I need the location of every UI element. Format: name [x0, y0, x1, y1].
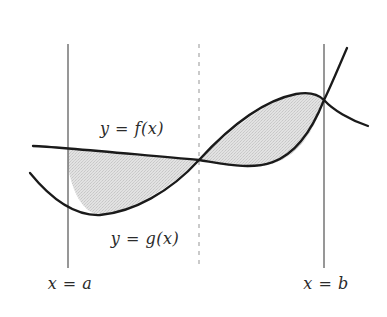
- area-between-curves-figure: y = f(x) y = g(x) x = a x = b: [0, 0, 387, 317]
- label-curve-g: y = g(x): [111, 229, 179, 248]
- label-x-equals-a: x = a: [48, 274, 93, 293]
- shaded-region-right-lobe: [199, 93, 324, 167]
- diagram-canvas: [0, 0, 387, 317]
- label-curve-f: y = f(x): [100, 119, 164, 138]
- label-x-equals-b: x = b: [303, 274, 348, 293]
